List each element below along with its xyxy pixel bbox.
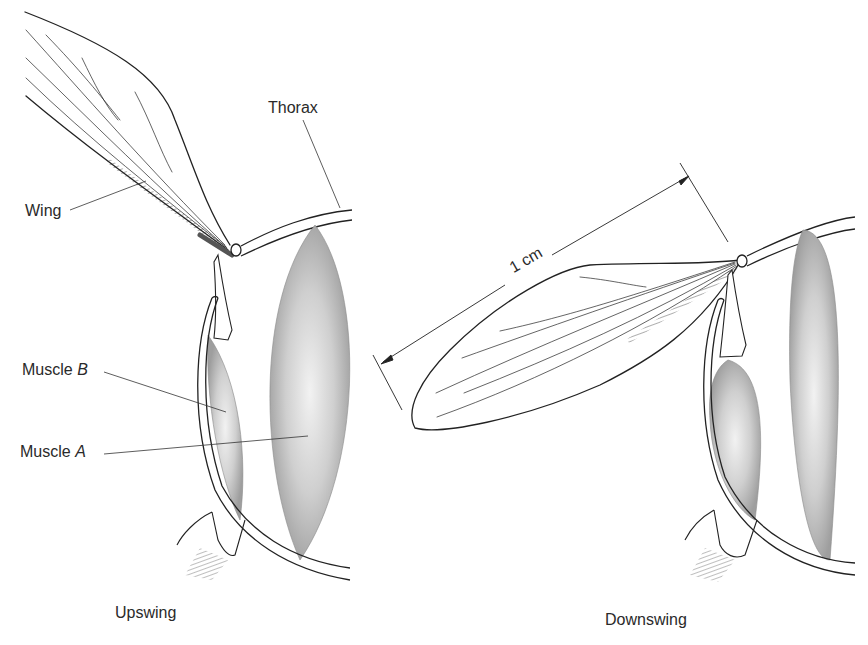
- muscle-a-label: Muscle A: [20, 444, 86, 460]
- upswing-panel: [25, 12, 352, 580]
- muscle-a-letter: A: [75, 443, 86, 460]
- caption-upswing: Upswing: [115, 605, 176, 621]
- wing-label: Wing: [25, 203, 61, 219]
- scale-bar: [373, 163, 728, 410]
- downswing-muscle-b: [710, 360, 761, 520]
- thorax-leader: [303, 120, 340, 208]
- thorax-label: Thorax: [268, 100, 318, 116]
- muscle-b-letter: B: [77, 361, 88, 378]
- insect-flight-muscle-diagram: [0, 0, 868, 645]
- downswing-apodeme: [720, 270, 746, 357]
- downswing-panel: [373, 163, 855, 582]
- muscle-b-label: Muscle B: [22, 362, 88, 378]
- downswing-wing-hinge: [737, 255, 747, 267]
- upswing-muscle-a: [270, 225, 350, 560]
- muscle-b-leader: [104, 372, 226, 412]
- muscle-b-prefix: Muscle: [22, 361, 77, 378]
- downswing-wing: [412, 260, 740, 430]
- upswing-wing-hinge: [231, 244, 241, 256]
- upswing-leg-base: [177, 512, 245, 580]
- caption-downswing: Downswing: [605, 612, 687, 628]
- downswing-leg-base: [685, 510, 757, 582]
- downswing-muscle-a: [790, 230, 839, 560]
- muscle-a-prefix: Muscle: [20, 443, 75, 460]
- upswing-apodeme: [214, 255, 232, 340]
- upswing-thorax-plate: [241, 210, 352, 256]
- wing-leader: [70, 181, 146, 210]
